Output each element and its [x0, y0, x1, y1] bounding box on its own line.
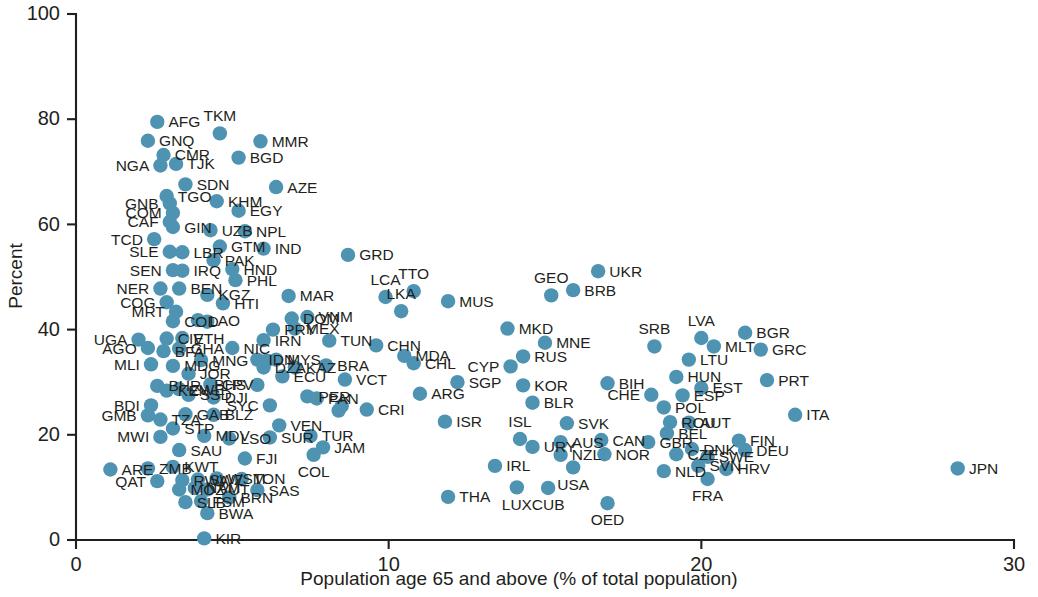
data-point-label: SVK — [578, 415, 610, 432]
data-point-label: AZE — [287, 179, 317, 196]
x-tick-label-30: 30 — [1003, 553, 1025, 575]
data-point — [153, 158, 167, 172]
data-point-label: BGD — [250, 149, 284, 166]
x-axis-title: Population age 65 and above (% of total … — [300, 568, 737, 589]
data-point-label: HTI — [234, 295, 259, 312]
data-point-label: ISR — [456, 413, 482, 430]
data-point-label: MWI — [117, 428, 149, 445]
data-point-label: MRT — [132, 303, 166, 320]
data-point-label: CUB — [532, 496, 565, 513]
data-point-label: LAO — [209, 312, 240, 329]
x-tick-label-0: 0 — [70, 553, 81, 575]
data-point — [281, 289, 295, 303]
data-point-label: GRD — [359, 246, 393, 263]
data-point — [644, 388, 658, 402]
data-point-label: EGY — [250, 202, 283, 219]
data-point-label: JPN — [969, 460, 998, 477]
data-point-label: THA — [459, 488, 491, 505]
y-tick-label-60: 60 — [38, 213, 60, 235]
data-point — [163, 245, 177, 259]
data-point — [269, 180, 283, 194]
data-point — [172, 482, 186, 496]
data-point-label: GMB — [101, 407, 136, 424]
data-point-label: SUR — [281, 429, 314, 446]
data-point-label: ECU — [294, 368, 327, 385]
data-point-label: DEU — [756, 442, 789, 459]
y-tick-label-0: 0 — [49, 528, 60, 550]
data-point-label: BHS — [214, 376, 246, 393]
data-point-label: JAM — [334, 439, 365, 456]
data-point — [525, 440, 539, 454]
data-point-label: STP — [184, 420, 214, 437]
data-point-label: SAS — [269, 482, 300, 499]
data-point — [156, 344, 170, 358]
data-point — [510, 480, 524, 494]
data-point — [306, 448, 320, 462]
data-point — [153, 412, 167, 426]
data-point-label: TTO — [398, 265, 429, 282]
data-point-label: PRT — [778, 372, 809, 389]
data-point-label: MUS — [459, 293, 493, 310]
y-tick-label-80: 80 — [38, 107, 60, 129]
data-point-label: BEN — [190, 280, 222, 297]
data-point — [694, 331, 708, 345]
data-point-label: MAR — [300, 287, 334, 304]
data-point-label: LUX — [502, 496, 533, 513]
data-point-label: SGP — [469, 374, 502, 391]
data-point — [238, 451, 252, 465]
data-point-label: UZB — [222, 222, 253, 239]
data-point-label: MLT — [725, 338, 755, 355]
point-labels-group: AFGGNQCMRNGATJKTKMMMRBGDSDNAZETGOGNBKHMC… — [94, 107, 998, 547]
data-point — [175, 245, 189, 259]
data-point — [175, 263, 189, 277]
y-tick-label-100: 100 — [27, 2, 60, 24]
data-point — [153, 430, 167, 444]
data-point — [144, 357, 158, 371]
data-point-label: MMR — [272, 133, 309, 150]
data-point-label: VCT — [356, 371, 388, 388]
data-point — [503, 359, 517, 373]
data-point — [544, 288, 558, 302]
data-point-label: PHL — [247, 272, 278, 289]
data-point-label: ITA — [806, 406, 830, 423]
data-point — [253, 134, 267, 148]
data-point-label: CHE — [607, 386, 640, 403]
data-point — [441, 294, 455, 308]
data-point-label: NGA — [116, 157, 150, 174]
data-point-label: KIR — [215, 530, 241, 547]
data-point-label: SRB — [638, 320, 670, 337]
data-point — [600, 496, 614, 510]
data-point-label: NLD — [675, 463, 706, 480]
data-point — [150, 115, 164, 129]
scatter-chart-figure: 0204060801000102030 AFGGNQCMRNGATJKTKMMM… — [0, 0, 1038, 597]
data-point — [141, 408, 155, 422]
data-point-label: SYC — [227, 397, 259, 414]
data-point-label: GEO — [534, 269, 568, 286]
data-point — [360, 402, 374, 416]
data-point — [657, 400, 671, 414]
data-point — [166, 314, 180, 328]
data-point — [682, 352, 696, 366]
data-point-label: MKD — [519, 320, 553, 337]
data-point-label: IRL — [506, 457, 531, 474]
data-point — [500, 321, 514, 335]
data-point-label: CRI — [378, 401, 405, 418]
data-point — [394, 304, 408, 318]
data-point — [228, 273, 242, 287]
data-point-label: RUS — [534, 348, 567, 365]
data-point-label: BRB — [584, 282, 616, 299]
data-point-label: BLR — [544, 394, 574, 411]
data-point — [413, 387, 427, 401]
data-point — [657, 464, 671, 478]
data-point-label: LBR — [194, 244, 224, 261]
data-point-label: LSO — [240, 430, 271, 447]
data-point-label: GIN — [184, 219, 212, 236]
data-point — [951, 461, 965, 475]
data-point-label: COL — [298, 463, 330, 480]
data-point-label: ISL — [508, 413, 532, 430]
data-point-label: SLE — [129, 243, 158, 260]
data-point — [669, 370, 683, 384]
data-point-label: LKA — [387, 285, 417, 302]
data-point-label: CHL — [425, 355, 456, 372]
data-point-label: OED — [591, 511, 625, 528]
